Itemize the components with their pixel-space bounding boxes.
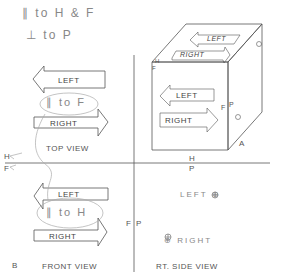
cube-top-left-label: LEFT — [207, 35, 226, 42]
cube-h-label: H — [155, 58, 160, 64]
side-view-right-label: ⊕ RIGHT — [164, 236, 212, 245]
fold-label-hp-p: P — [189, 164, 195, 173]
cube-side-p-label: P — [229, 101, 234, 108]
side-view-markers — [165, 192, 218, 240]
cube-f-label: F — [152, 65, 156, 71]
cube-top-right-label: RIGHT — [180, 51, 204, 58]
cube-side-f-label: F — [221, 104, 226, 111]
note-parallel-h-f: ∥ to H & F — [22, 6, 95, 20]
fold-label-hp-h: H — [189, 154, 195, 163]
cube-front-right-label: RIGHT — [165, 116, 192, 125]
corner-label-b: B — [12, 261, 18, 270]
fold-label-f: F — [4, 164, 9, 173]
cube-corner-a: A — [239, 139, 245, 148]
side-view-title: RT. SIDE VIEW — [156, 262, 218, 271]
top-view-title: TOP VIEW — [46, 144, 89, 153]
front-view-left-label: LEFT — [58, 190, 80, 199]
front-view-title: FRONT VIEW — [42, 262, 97, 271]
top-view-note: ∥ to F — [46, 96, 86, 109]
top-view-right-label: RIGHT — [50, 119, 77, 128]
fold-label-fp-p: P — [136, 219, 142, 228]
fold-label-fp-f: F — [126, 219, 131, 228]
top-view-left-label: LEFT — [58, 76, 80, 85]
fold-label-h: H — [4, 152, 10, 161]
cube-front-left-label: LEFT — [176, 91, 198, 100]
front-view-right-label: RIGHT — [49, 232, 76, 241]
note-perpendicular-p: ⊥ to P — [26, 28, 73, 42]
isometric-cube — [152, 24, 262, 150]
side-view-left-label: LEFT ⊕ — [180, 190, 221, 199]
front-view-note: ∥ to H — [46, 206, 87, 219]
